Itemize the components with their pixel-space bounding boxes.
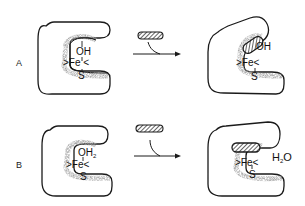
metal-label: Fe [69, 57, 81, 68]
metal-label: Fe [242, 57, 254, 68]
ligand-oh-a-after: OH [256, 42, 271, 52]
ligand-oh2-b-before: OH2 [78, 148, 96, 159]
panel-label-a: A [16, 58, 22, 68]
fe-center-b-before: >Fe< [66, 160, 89, 170]
ligand-oh-a-before: OH [76, 47, 91, 57]
sulfur-b-after: S [249, 170, 256, 180]
metal-label: Fe [241, 157, 253, 168]
bound-substrate-b [232, 143, 260, 152]
reaction-arrow-a [133, 32, 181, 57]
released-water: H2O [272, 152, 292, 164]
fe-center-a-after: >Fe< [236, 58, 259, 68]
free-substrate-a [138, 32, 163, 39]
panel-label-b: B [16, 160, 22, 170]
fe-center-b-after: >Fe< [235, 158, 258, 168]
water-h: H [272, 151, 280, 163]
ligand-label: OH [78, 147, 93, 158]
ligand-subscript: 2 [93, 153, 96, 159]
sulfur-a-before: S [78, 71, 85, 81]
water-o: O [283, 151, 292, 163]
reaction-arrow-b [134, 125, 181, 159]
fe-center-a-before: >Fe < [63, 58, 89, 68]
enzyme-a-after [208, 17, 284, 94]
sulfur-a-after: S [251, 72, 258, 82]
metal-label: Fe [72, 159, 84, 170]
free-substrate-b [136, 125, 163, 132]
sulfur-b-before: S [80, 172, 87, 182]
